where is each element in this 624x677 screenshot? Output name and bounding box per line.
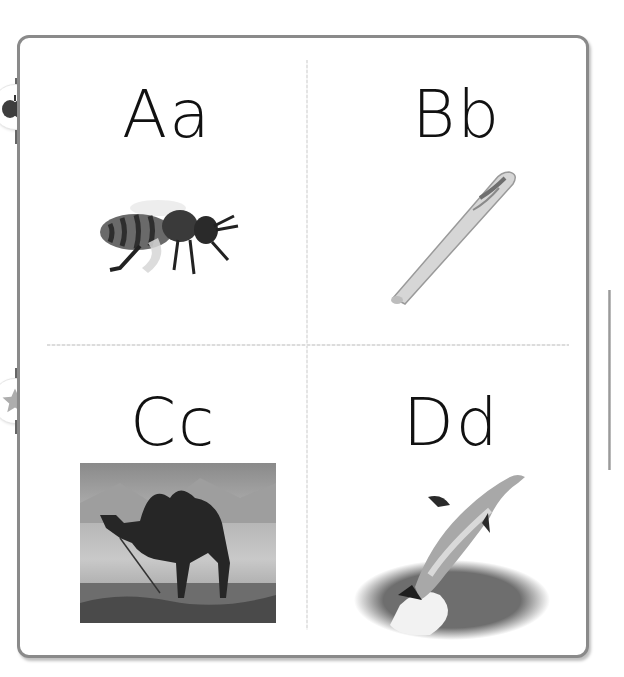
bee-picture: [98, 190, 244, 280]
letter-dd: Dd: [403, 390, 500, 456]
letter-bb: Bb: [412, 82, 501, 148]
letter-aa: Aa: [122, 82, 212, 148]
horizontal-divider: [47, 344, 569, 346]
letter-cc: Cc: [130, 390, 216, 456]
baseball-bat-picture: [385, 170, 525, 310]
camel-picture: [80, 463, 276, 623]
page-edge: [608, 290, 611, 470]
dolphin-picture: [350, 465, 555, 640]
